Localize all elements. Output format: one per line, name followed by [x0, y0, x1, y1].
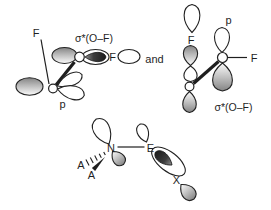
right-lower-o-atom — [185, 82, 194, 91]
right-sigma-star-label: σ*(O–F) — [215, 101, 253, 113]
right-p-label: p — [225, 14, 231, 26]
orbital-interaction-figure: F σ*(O–F) F p and F p F σ*(O–F) — [0, 0, 271, 210]
x-atom-label: X — [173, 174, 181, 186]
conjunction-text: and — [145, 53, 163, 65]
left-f-right-label: F — [109, 51, 116, 63]
lower-o-lone-pair-lobe — [16, 78, 43, 96]
left-sigma-star-label: σ*(O–F) — [75, 32, 113, 44]
right-f-top-label: F — [188, 34, 195, 46]
n-atom-label: N — [107, 142, 115, 154]
upper-o-lone-pair-lobe — [52, 48, 77, 64]
e-atom-label: E — [147, 142, 154, 154]
diagram-svg: F σ*(O–F) F p and F p F σ*(O–F) — [0, 0, 271, 210]
left-p-label: p — [59, 98, 65, 110]
lower-o-atom — [49, 84, 58, 93]
a-lower-atom-label: A — [88, 169, 96, 181]
right-upper-o-atom — [218, 53, 228, 63]
left-f-top-label: F — [33, 27, 40, 39]
upper-o-atom — [75, 52, 85, 62]
f-back-lobe — [118, 50, 140, 64]
right-f-right-label: F — [251, 52, 258, 64]
a-upper-atom-label: A — [77, 159, 85, 171]
